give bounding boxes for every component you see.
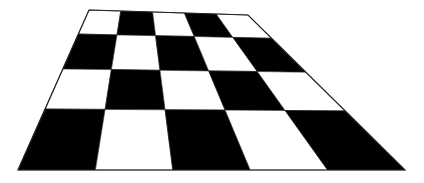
tiles-group xyxy=(18,10,405,170)
dark-tile xyxy=(117,11,156,36)
light-tile xyxy=(45,69,111,109)
light-tile xyxy=(95,109,172,170)
checkerboard xyxy=(0,0,424,183)
dark-tile xyxy=(105,70,165,110)
light-tile xyxy=(111,35,160,70)
light-tile xyxy=(78,10,121,35)
